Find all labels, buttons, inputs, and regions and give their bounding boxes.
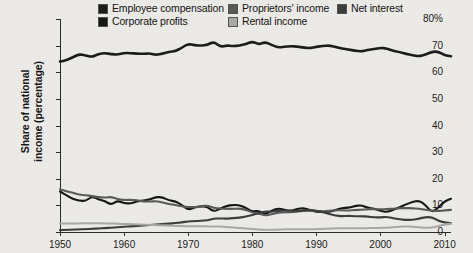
x-tick-label-1990: 1990 bbox=[291, 239, 341, 250]
x-tick-label-2000: 2000 bbox=[355, 239, 405, 250]
y-axis-title: Share of national income (percentage) bbox=[19, 27, 44, 197]
y-axis-title-line1: Share of national bbox=[19, 27, 32, 197]
legend-label-proprietors-income: Proprietors' income bbox=[242, 2, 329, 15]
x-tick-label-1980: 1980 bbox=[227, 239, 277, 250]
legend-entry-net-interest: Net interest bbox=[337, 2, 403, 15]
x-tick-label-1970: 1970 bbox=[163, 239, 213, 250]
legend-entry-proprietors-income: Proprietors' income bbox=[228, 2, 329, 15]
series-lines bbox=[60, 19, 451, 233]
legend-swatch-employee-compensation bbox=[98, 4, 108, 14]
series-line-employee-compensation bbox=[60, 42, 451, 62]
plot-area: 01020304050607080% 195019601970198019902… bbox=[60, 19, 450, 232]
legend-row-1: Employee compensation bbox=[98, 2, 236, 15]
legend-label-employee-compensation: Employee compensation bbox=[112, 2, 224, 15]
legend-label-net-interest: Net interest bbox=[351, 2, 403, 15]
chart-root: Share of national income (percentage) Em… bbox=[0, 0, 473, 253]
legend-swatch-net-interest bbox=[337, 4, 347, 14]
legend-item-employee-compensation: Employee compensation bbox=[98, 2, 224, 15]
x-tick-label-1960: 1960 bbox=[99, 239, 149, 250]
legend-item-proprietors-income: Proprietors' income bbox=[228, 2, 341, 15]
legend-swatch-proprietors-income bbox=[228, 4, 238, 14]
x-tick-label-2010: 2010 bbox=[420, 239, 470, 250]
y-axis-title-line2: income (percentage) bbox=[31, 27, 44, 197]
series-line-corporate-profits bbox=[60, 192, 451, 214]
x-tick-label-1950: 1950 bbox=[35, 239, 85, 250]
